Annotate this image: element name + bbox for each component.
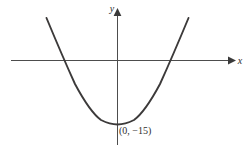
vertex-point-label: (0, −15) — [119, 125, 151, 137]
x-axis-label: x — [237, 55, 243, 66]
graph-figure: x y (0, −15) — [0, 0, 252, 150]
y-axis-arrowhead — [114, 8, 122, 16]
x-axis-arrowhead — [228, 57, 236, 65]
coordinate-plane-svg: x y (0, −15) — [0, 0, 252, 150]
y-axis-label: y — [109, 3, 115, 14]
